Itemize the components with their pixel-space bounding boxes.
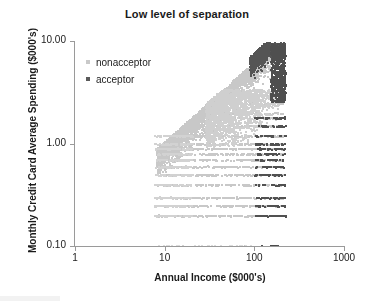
x-tick-mark	[165, 247, 166, 251]
y-tick-mark	[70, 41, 74, 42]
x-tick-label: 1000	[324, 252, 364, 263]
legend-label-acceptor: acceptor	[96, 74, 134, 85]
x-tick-mark	[254, 247, 255, 251]
scan-edge-artifact	[0, 296, 60, 301]
legend-item-acceptor: acceptor	[86, 72, 151, 86]
x-axis-line	[75, 246, 345, 247]
x-tick-mark	[344, 247, 345, 251]
legend-marker-nonacceptor	[86, 60, 90, 64]
legend: nonacceptor acceptor	[86, 55, 151, 89]
x-tick-label: 10	[145, 252, 185, 263]
y-tick-mark	[70, 144, 74, 145]
legend-marker-acceptor	[86, 77, 90, 81]
x-tick-mark	[75, 247, 76, 251]
y-axis-title: Monthly Credit Card Average Spending ($0…	[27, 26, 38, 256]
legend-item-nonacceptor: nonacceptor	[86, 55, 151, 69]
x-tick-label: 100	[234, 252, 274, 263]
x-tick-label: 1	[55, 252, 95, 263]
y-tick-mark	[70, 246, 74, 247]
x-axis-title: Annual Income ($000's)	[75, 272, 345, 283]
scatter-plot-figure: Low level of separation 0.101.0010.00 11…	[0, 0, 374, 301]
chart-title: Low level of separation	[0, 8, 374, 20]
legend-label-nonacceptor: nonacceptor	[96, 57, 151, 68]
